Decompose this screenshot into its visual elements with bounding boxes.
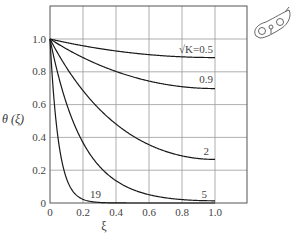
x-tick: 0.8 xyxy=(175,206,189,218)
y-tick: 1.0 xyxy=(32,33,46,45)
seed-sketch-icon xyxy=(255,7,290,38)
curve-series-3 xyxy=(50,39,215,201)
label-sqrtk-0.5: √K=0.5 xyxy=(179,43,213,55)
label-5: 5 xyxy=(202,188,208,200)
y-axis-label: θ (ξ) xyxy=(2,112,24,126)
x-axis-label: ξ xyxy=(101,219,107,233)
y-tick: 0.2 xyxy=(32,164,46,176)
y-tick: 0.6 xyxy=(32,98,46,110)
label-0.9: 0.9 xyxy=(199,73,213,85)
x-tick: 0.4 xyxy=(109,206,123,218)
chart: 0 0.2 0.4 0.6 0.8 1.0 θ (ξ) 0 0.2 0.4 0.… xyxy=(0,0,292,234)
curves xyxy=(50,39,215,203)
label-19: 19 xyxy=(90,188,102,200)
x-tick: 0.6 xyxy=(142,206,156,218)
gridlines xyxy=(50,6,247,203)
x-tick: 0.2 xyxy=(76,206,90,218)
curve-labels: √K=0.5 0.9 2 5 19 xyxy=(90,43,214,200)
x-tick: 0 xyxy=(47,206,53,218)
y-axis: 0 0.2 0.4 0.6 0.8 1.0 θ (ξ) xyxy=(2,33,47,209)
y-tick: 0 xyxy=(41,197,47,209)
y-tick: 0.4 xyxy=(32,131,46,143)
y-tick: 0.8 xyxy=(32,65,46,77)
x-axis: 0 0.2 0.4 0.6 0.8 1.0 ξ xyxy=(47,206,222,233)
curve-series-4 xyxy=(50,39,215,203)
label-2: 2 xyxy=(204,145,210,157)
x-tick: 1.0 xyxy=(208,206,222,218)
